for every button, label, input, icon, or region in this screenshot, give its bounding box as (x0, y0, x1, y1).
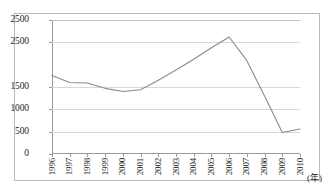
x-tick-mark (158, 154, 159, 157)
x-tick-label: 2008 (260, 158, 269, 175)
x-tick-mark (87, 154, 88, 157)
x-tick-mark (141, 154, 142, 157)
x-tick-mark (300, 154, 301, 157)
x-tick-mark (229, 154, 230, 157)
series-1-line (52, 37, 300, 133)
x-tick-label: 2002 (154, 158, 163, 175)
series-line-chart (52, 20, 300, 154)
x-tick-label: 2009 (278, 158, 287, 175)
x-tick-mark (176, 154, 177, 157)
y-tick-label: 1000 (0, 104, 29, 114)
x-tick-label: 2007 (242, 158, 251, 175)
x-tick-mark (211, 154, 212, 157)
x-tick-mark (247, 154, 248, 157)
chart-figure: 25002500150010005000 1996199719981999200… (14, 13, 320, 181)
x-tick-label: 1998 (83, 158, 92, 175)
x-tick-mark (265, 154, 266, 157)
x-tick-label: 2006 (225, 158, 234, 175)
x-tick-label: 1997 (65, 158, 74, 175)
x-tick-label: 1999 (101, 158, 110, 175)
x-tick-label: 2005 (207, 158, 216, 175)
y-tick-label: 1500 (0, 82, 29, 92)
plot-area (52, 20, 300, 154)
x-tick-mark (105, 154, 106, 157)
x-tick-mark (52, 154, 53, 157)
y-tick-label: 2500 (0, 15, 29, 25)
x-tick-mark (282, 154, 283, 157)
x-tick-label: 2004 (189, 158, 198, 175)
y-tick-label: 2500 (0, 37, 29, 47)
y-tick-label: 0 (0, 149, 29, 159)
x-axis-unit-label: (年) (307, 174, 322, 183)
x-tick-label: 2010 (296, 158, 305, 175)
x-tick-mark (70, 154, 71, 157)
x-tick-label: 2000 (118, 158, 127, 175)
x-tick-label: 2001 (136, 158, 145, 175)
x-tick-label: 2003 (172, 158, 181, 175)
y-tick-label: 500 (0, 127, 29, 137)
x-tick-label: 1996 (48, 158, 57, 175)
x-tick-mark (123, 154, 124, 157)
x-tick-mark (194, 154, 195, 157)
